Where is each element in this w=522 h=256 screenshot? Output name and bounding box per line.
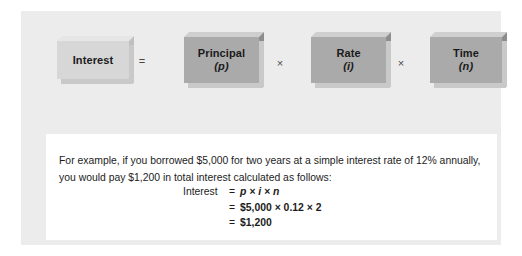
example-panel: For example, if you borrowed $5,000 for …	[46, 134, 497, 240]
formula-block: Interest = p × i × n = $5,000 × 0.12 × 2…	[183, 184, 321, 231]
operator-times-first: ×	[272, 57, 288, 69]
box-shadow-bottom-icon	[434, 83, 506, 88]
term-symbol-rate: (i)	[343, 60, 354, 73]
box-face: Rate (i)	[311, 37, 386, 83]
box-shadow-bottom-icon	[188, 83, 263, 88]
box-shadow-bottom-icon	[61, 79, 133, 84]
term-label-rate: Rate	[336, 47, 360, 60]
formula-line-3: = $1,200	[183, 215, 321, 231]
box-face: Principal (p)	[184, 37, 259, 83]
formula-equals-2: =	[229, 200, 240, 216]
formula-label-3	[183, 215, 229, 231]
formula-equals-3: =	[229, 215, 240, 231]
formula-value-3: $1,200	[240, 215, 272, 231]
operator-equals: =	[134, 55, 150, 67]
box-shadow-bottom-icon	[315, 83, 390, 88]
term-label-time: Time	[453, 47, 479, 60]
box-face: Time (n)	[430, 37, 502, 83]
formula-label-2	[183, 200, 229, 216]
formula-line-1: Interest = p × i × n	[183, 184, 321, 200]
term-symbol-time: (n)	[459, 60, 473, 73]
formula-equals-1: =	[229, 184, 240, 200]
equation-term-time: Time (n)	[430, 37, 502, 83]
formula-line-2: = $5,000 × 0.12 × 2	[183, 200, 321, 216]
formula-label-interest: Interest	[183, 184, 229, 200]
term-label-principal: Principal	[198, 47, 245, 60]
equation-term-principal: Principal (p)	[184, 37, 259, 83]
operator-times-second: ×	[393, 57, 409, 69]
box-shadow-right-icon	[259, 41, 264, 87]
term-symbol-principal: (p)	[214, 60, 228, 73]
formula-value-2: $5,000 × 0.12 × 2	[240, 200, 321, 216]
example-paragraph: For example, if you borrowed $5,000 for …	[59, 153, 482, 185]
term-label-interest: Interest	[73, 54, 114, 67]
figure-card: Interest = Principal (p) ×	[21, 11, 501, 245]
box-face: Interest	[57, 41, 129, 79]
formula-value-1: p × i × n	[240, 184, 279, 200]
simple-interest-figure: Interest = Principal (p) ×	[0, 0, 522, 256]
box-shadow-right-icon	[502, 41, 507, 87]
equation-term-rate: Rate (i)	[311, 37, 386, 83]
equation-term-interest: Interest	[57, 41, 129, 79]
equation-row: Interest = Principal (p) ×	[21, 11, 501, 111]
box-shadow-right-icon	[386, 41, 391, 87]
